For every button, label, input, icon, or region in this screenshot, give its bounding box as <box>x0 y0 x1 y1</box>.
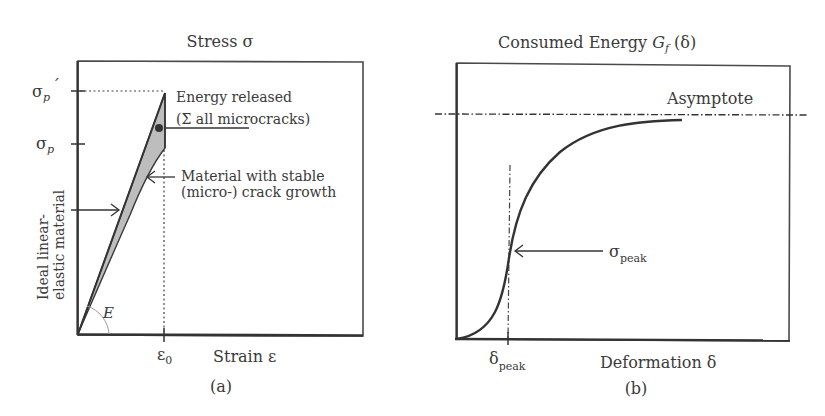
panel-a: Stress σ E σp´ σp ε <box>32 32 363 396</box>
annotation-material-line-2: (micro-) crack growth <box>181 184 336 200</box>
annotation-material-line-1: Material with stable <box>181 168 324 184</box>
asymptote-line <box>435 114 808 115</box>
label-sigma-p-prime: σp´ <box>32 76 60 104</box>
annotation-ideal-line-2: elastic material <box>51 189 67 300</box>
annotation-energy-line-2: (Σ all microcracks) <box>176 111 310 127</box>
panel-b-caption: (b) <box>625 379 648 398</box>
label-epsilon-0: ε0 <box>157 345 172 367</box>
panel-a-title: Stress σ <box>187 32 254 51</box>
panel-a-x-axis <box>77 335 363 336</box>
diagram-canvas: Stress σ E σp´ σp ε <box>0 0 825 416</box>
label-sigma-p: σp <box>36 134 54 156</box>
panel-b-title: Consumed Energy Gf (δ) <box>498 33 696 55</box>
annotation-ideal-line-1: Ideal linear- <box>35 214 51 300</box>
panel-a-x-label: Strain ε <box>213 347 276 366</box>
label-delta-peak: δpeak <box>489 349 526 373</box>
asymptote-label: Asymptote <box>666 89 753 108</box>
ideal-linear-elastic-line <box>78 93 165 334</box>
panel-b-x-axis <box>455 339 790 341</box>
modulus-label: E <box>102 304 114 322</box>
annotation-energy-line-1: Energy released <box>176 89 292 105</box>
consumed-energy-curve <box>457 120 682 339</box>
panel-b-x-label: Deformation δ <box>600 353 716 372</box>
energy-marker-dot <box>155 124 163 132</box>
panel-b: Consumed Energy Gf (δ) Asymptote σpeak δ… <box>435 33 808 398</box>
label-sigma-peak: σpeak <box>609 242 647 265</box>
panel-a-caption: (a) <box>210 377 232 396</box>
